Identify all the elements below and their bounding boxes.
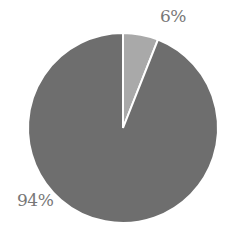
slice-label-large: 94%	[17, 190, 53, 210]
pie-slices	[28, 33, 218, 223]
pie-slice-large	[28, 33, 218, 223]
slice-label-small: 6%	[160, 6, 186, 26]
